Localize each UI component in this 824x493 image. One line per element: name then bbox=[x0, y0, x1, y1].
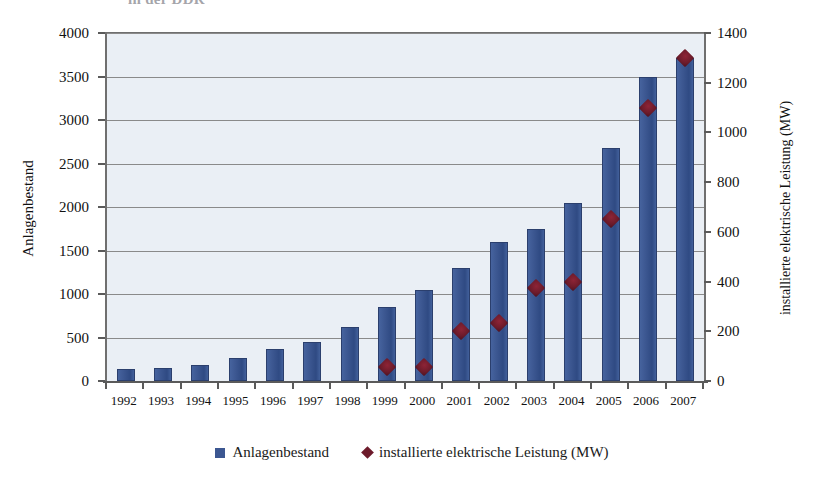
y-axis-left-tick bbox=[98, 250, 105, 252]
y-axis-left-label: 4000 bbox=[33, 25, 89, 42]
chart-legend: Anlagenbestandinstallierte elektrische L… bbox=[0, 444, 824, 461]
legend-label: installierte elektrische Leistung (MW) bbox=[379, 444, 609, 461]
legend-diamond-icon bbox=[361, 446, 374, 459]
x-axis-tick bbox=[478, 382, 480, 389]
y-axis-left-label: 1000 bbox=[33, 286, 89, 303]
y-axis-right-label: 1000 bbox=[717, 124, 773, 141]
y-axis-right-label: 400 bbox=[717, 273, 773, 290]
y-axis-left-label: 1500 bbox=[33, 242, 89, 259]
x-axis-tick bbox=[254, 382, 256, 389]
bar-2003 bbox=[527, 229, 545, 381]
bar-1997 bbox=[303, 342, 321, 381]
x-axis-tick bbox=[292, 382, 294, 389]
bar-2002 bbox=[490, 242, 508, 381]
bar-1994 bbox=[191, 365, 209, 381]
x-axis-tick bbox=[553, 382, 555, 389]
y-axis-right-tick bbox=[704, 131, 711, 133]
y-axis-right-tick bbox=[704, 82, 711, 84]
y-axis-right-tick bbox=[704, 281, 711, 283]
gridline bbox=[107, 33, 704, 34]
legend-label: Anlagenbestand bbox=[232, 444, 329, 461]
y-axis-right-tick bbox=[704, 330, 711, 332]
y-axis-left-tick bbox=[98, 32, 105, 34]
y-axis-left-tick bbox=[98, 293, 105, 295]
y-axis-left-tick bbox=[98, 380, 105, 382]
gridline bbox=[107, 120, 704, 121]
x-axis-tick bbox=[665, 382, 667, 389]
gridline bbox=[107, 77, 704, 78]
legend-square-icon bbox=[215, 448, 225, 458]
bar-1996 bbox=[266, 349, 284, 381]
bar-2004 bbox=[564, 203, 582, 381]
x-axis-line bbox=[103, 381, 708, 383]
x-axis-tick bbox=[702, 382, 704, 389]
y-axis-left-tick bbox=[98, 76, 105, 78]
y-axis-right-tick bbox=[704, 181, 711, 183]
y-axis-right-tick bbox=[704, 380, 711, 382]
bar-1992 bbox=[117, 369, 135, 381]
y-axis-left-label: 2500 bbox=[33, 155, 89, 172]
chart-figure: in der DDR Anlagenbestand installierte e… bbox=[0, 0, 824, 493]
y-axis-left-label: 0 bbox=[33, 373, 89, 390]
x-axis-tick bbox=[142, 382, 144, 389]
y-axis-left-tick bbox=[98, 119, 105, 121]
bar-1993 bbox=[154, 368, 172, 381]
y-axis-left-tick bbox=[98, 337, 105, 339]
x-axis-tick bbox=[404, 382, 406, 389]
y-axis-right-label: 1200 bbox=[717, 74, 773, 91]
y-axis-right-label: 800 bbox=[717, 174, 773, 191]
y-axis-right-tick bbox=[704, 231, 711, 233]
legend-item-1[interactable]: installierte elektrische Leistung (MW) bbox=[363, 444, 609, 461]
bar-1998 bbox=[341, 327, 359, 381]
y-axis-right-label: 200 bbox=[717, 323, 773, 340]
y-axis-right-label: 1400 bbox=[717, 25, 773, 42]
x-axis-label-2007: 2007 bbox=[660, 393, 706, 409]
y-axis-left-tick bbox=[98, 206, 105, 208]
bar-1995 bbox=[229, 358, 247, 381]
x-axis-tick bbox=[441, 382, 443, 389]
y-axis-right-label: 600 bbox=[717, 223, 773, 240]
clipped-title-fragment: in der DDR bbox=[128, 0, 348, 5]
plot-area bbox=[105, 33, 706, 381]
y-axis-left-label: 3500 bbox=[33, 68, 89, 85]
x-axis-tick bbox=[329, 382, 331, 389]
x-axis-tick bbox=[627, 382, 629, 389]
y-axis-left-label: 2000 bbox=[33, 199, 89, 216]
bar-2006 bbox=[639, 77, 657, 381]
x-axis-tick bbox=[515, 382, 517, 389]
y-axis-left-tick bbox=[98, 163, 105, 165]
bar-2005 bbox=[602, 148, 620, 381]
y-axis-left-label: 3000 bbox=[33, 112, 89, 129]
y-axis-left-label: 500 bbox=[33, 329, 89, 346]
x-axis-tick bbox=[366, 382, 368, 389]
y-axis-right-title: installierte elektrische Leistung (MW) bbox=[778, 8, 794, 408]
y-axis-right-tick bbox=[704, 32, 711, 34]
x-axis-tick bbox=[590, 382, 592, 389]
bar-2007 bbox=[676, 58, 694, 381]
y-axis-right-label: 0 bbox=[717, 373, 773, 390]
x-axis-tick bbox=[180, 382, 182, 389]
x-axis-tick bbox=[217, 382, 219, 389]
x-axis-tick bbox=[105, 382, 107, 389]
legend-item-0[interactable]: Anlagenbestand bbox=[215, 444, 329, 461]
